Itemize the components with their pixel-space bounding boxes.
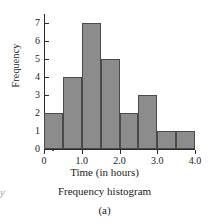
plot-area: Frequency 01234567 01.02.03.04.0 Time (i… bbox=[0, 0, 209, 168]
y-tick-label-text: 2 bbox=[26, 108, 40, 118]
y-tick-label-text: 0 bbox=[26, 144, 40, 154]
y-tick bbox=[45, 149, 49, 150]
x-tick bbox=[44, 150, 45, 154]
figure-caption: Frequency histogram bbox=[0, 185, 209, 197]
histogram-bar bbox=[63, 77, 82, 149]
histogram-bar bbox=[157, 131, 176, 149]
histogram-bar bbox=[44, 113, 63, 149]
y-tick bbox=[45, 59, 49, 60]
histogram-bar bbox=[176, 131, 195, 149]
y-tick-label: 3 bbox=[26, 90, 40, 100]
x-tick bbox=[195, 150, 196, 154]
y-tick-label-text: 3 bbox=[26, 90, 40, 100]
histogram-figure: Frequency 01234567 01.02.03.04.0 Time (i… bbox=[0, 0, 209, 224]
y-tick-label-text: 1 bbox=[26, 126, 40, 136]
y-tick-label: 0 bbox=[26, 144, 40, 154]
histogram-bar bbox=[82, 23, 101, 149]
y-tick-label-text: 5 bbox=[26, 54, 40, 64]
y-tick-label-text: 6 bbox=[26, 36, 40, 46]
y-tick-label-text: 7 bbox=[26, 18, 40, 28]
histogram-bar bbox=[120, 113, 139, 149]
y-tick-label: 4 bbox=[26, 72, 40, 82]
x-tick bbox=[157, 150, 158, 154]
figure-subcaption: (a) bbox=[0, 204, 209, 216]
y-tick bbox=[45, 41, 49, 42]
y-tick bbox=[45, 77, 49, 78]
y-tick-label: 1 bbox=[26, 126, 40, 136]
y-axis-label: Frequency bbox=[10, 31, 21, 101]
x-tick bbox=[120, 150, 121, 154]
histogram-bar bbox=[138, 95, 157, 149]
y-tick-label: 7 bbox=[26, 18, 40, 28]
y-tick-label: 5 bbox=[26, 54, 40, 64]
histogram-bar bbox=[101, 59, 120, 149]
axes: 01234567 01.02.03.04.0 bbox=[44, 14, 196, 150]
y-tick-label-text: 4 bbox=[26, 72, 40, 82]
y-tick-label: 6 bbox=[26, 36, 40, 46]
x-tick bbox=[82, 150, 83, 154]
y-tick bbox=[45, 23, 49, 24]
y-tick-label: 2 bbox=[26, 108, 40, 118]
page-edge-artifact: y bbox=[0, 186, 7, 202]
y-tick bbox=[45, 95, 49, 96]
x-axis-label: Time (in hours) bbox=[0, 166, 209, 178]
